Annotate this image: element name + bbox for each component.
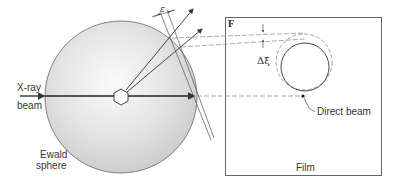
epsilon-arrow-right xyxy=(168,10,174,12)
epsilon-label: ε xyxy=(160,4,165,14)
ewald-sphere-label-line1: Ewald xyxy=(40,149,67,160)
direct-beam-leader xyxy=(304,98,315,112)
film-label: Film xyxy=(296,162,315,173)
xray-beam-label-line2: beam xyxy=(17,100,42,111)
diffraction-ring xyxy=(281,43,329,91)
projection-line-lower xyxy=(181,39,305,47)
delta-xi-label: Δξ xyxy=(257,55,270,66)
film-corner-label: F xyxy=(228,18,234,29)
crystal-icon xyxy=(114,89,128,105)
xray-beam-label-line1: X-ray xyxy=(17,82,41,93)
ewald-sphere-label-line2: sphere xyxy=(36,160,67,171)
direct-beam-label: Direct beam xyxy=(317,106,371,117)
direct-beam-spot xyxy=(301,94,304,97)
